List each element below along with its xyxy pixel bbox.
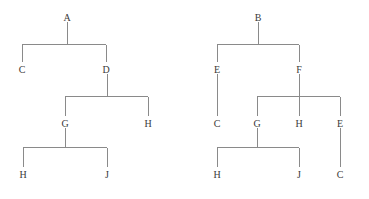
left-node-d: D: [102, 64, 109, 75]
left-node-h-mid: H: [144, 118, 151, 129]
left-tree-group: A C D G H H J: [19, 12, 152, 180]
right-node-j: J: [297, 169, 301, 180]
left-node-g: G: [61, 118, 68, 129]
right-node-h-mid: H: [295, 118, 302, 129]
left-edge-d-children: [65, 74, 148, 116]
right-tree-group: B E F C G H E H J C: [213, 12, 343, 180]
right-node-c-leaf: C: [337, 169, 344, 180]
right-node-e-left: E: [214, 64, 220, 75]
right-edge-g-children: [217, 128, 299, 167]
left-node-h-leaf: H: [19, 169, 26, 180]
left-node-a: A: [63, 12, 71, 23]
tree-diagram-figure: A C D G H H J: [0, 0, 369, 199]
left-edge-a-children: [22, 22, 106, 62]
tree-diagram-canvas: A C D G H H J: [0, 0, 369, 199]
right-node-g: G: [253, 118, 260, 129]
right-edge-b-children: [217, 22, 299, 62]
left-node-j: J: [105, 169, 109, 180]
right-node-f: F: [296, 64, 302, 75]
left-edge-g-children: [23, 128, 107, 167]
right-node-h-leaf: H: [213, 169, 220, 180]
left-node-c: C: [19, 64, 26, 75]
right-edge-f-children: [257, 74, 340, 116]
right-node-e-right: E: [337, 118, 343, 129]
right-node-b: B: [255, 12, 262, 23]
right-node-c-under-e: C: [214, 118, 221, 129]
